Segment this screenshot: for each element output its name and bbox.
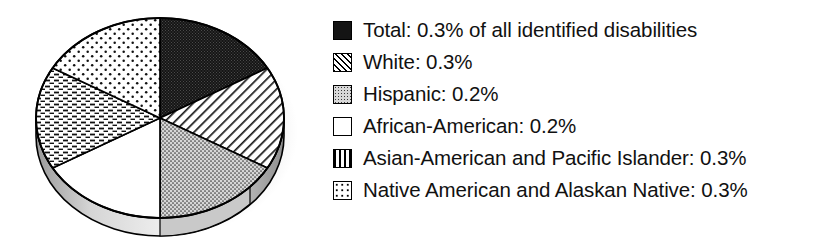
legend-label-hispanic: Hispanic: 0.2% xyxy=(363,84,498,104)
pie-chart-figure: Total: 0.3% of all identified disabiliti… xyxy=(0,0,824,247)
legend-swatch-white-icon xyxy=(333,53,352,72)
legend-item-total[interactable]: Total: 0.3% of all identified disabiliti… xyxy=(333,14,821,46)
legend-item-asian-american[interactable]: Asian-American and Pacific Islander: 0.3… xyxy=(333,142,821,174)
legend-label-white: White: 0.3% xyxy=(363,52,472,72)
pie-chart-svg xyxy=(18,0,328,247)
legend-label-asian-american: Asian-American and Pacific Islander: 0.3… xyxy=(363,148,746,168)
legend-swatch-asian-american-icon xyxy=(333,149,352,168)
legend-swatch-native-american-icon xyxy=(333,181,352,200)
pie-chart xyxy=(18,0,328,247)
legend-swatch-african-american-icon xyxy=(333,117,352,136)
legend-item-white[interactable]: White: 0.3% xyxy=(333,46,821,78)
legend-label-african-american: African-American: 0.2% xyxy=(363,116,576,136)
pie-slices xyxy=(36,18,284,218)
legend-item-native-american[interactable]: Native American and Alaskan Native: 0.3% xyxy=(333,174,821,206)
legend-item-african-american[interactable]: African-American: 0.2% xyxy=(333,110,821,142)
legend-label-native-american: Native American and Alaskan Native: 0.3% xyxy=(363,180,748,200)
legend-label-total: Total: 0.3% of all identified disabiliti… xyxy=(363,20,697,40)
legend-item-hispanic[interactable]: Hispanic: 0.2% xyxy=(333,78,821,110)
legend-swatch-hispanic-icon xyxy=(333,85,352,104)
legend-swatch-total-icon xyxy=(333,21,352,40)
chart-legend: Total: 0.3% of all identified disabiliti… xyxy=(333,14,821,206)
